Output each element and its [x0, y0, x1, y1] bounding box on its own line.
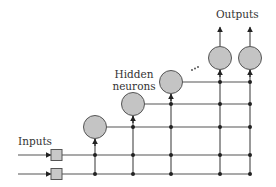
- network-diagram: [0, 0, 276, 187]
- input-node-1: [51, 150, 62, 161]
- input-nodes: [51, 150, 62, 180]
- hidden-neurons-label-line-2: neurons: [104, 81, 164, 92]
- hidden-neuron-1: [84, 116, 107, 139]
- hidden-neuron-2: [122, 93, 145, 116]
- output-arrows: [220, 27, 250, 46]
- input-node-2: [51, 169, 62, 180]
- inputs-label: Inputs: [18, 136, 52, 147]
- hidden-neurons-label-line-1: Hidden: [104, 69, 164, 80]
- ellipsis-icon: [191, 66, 199, 71]
- outputs-label: Outputs: [216, 9, 259, 20]
- output-neuron-1: [209, 47, 232, 70]
- input-arrows: [18, 155, 51, 174]
- neurons: [84, 47, 262, 139]
- junction-dots: [93, 80, 252, 176]
- output-neuron-2: [239, 47, 262, 70]
